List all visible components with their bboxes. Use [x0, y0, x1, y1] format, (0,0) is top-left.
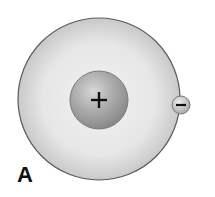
atom-diagram: A [0, 0, 215, 197]
nucleus [70, 71, 128, 129]
diagram-label: A [17, 164, 33, 186]
electron [172, 96, 190, 114]
